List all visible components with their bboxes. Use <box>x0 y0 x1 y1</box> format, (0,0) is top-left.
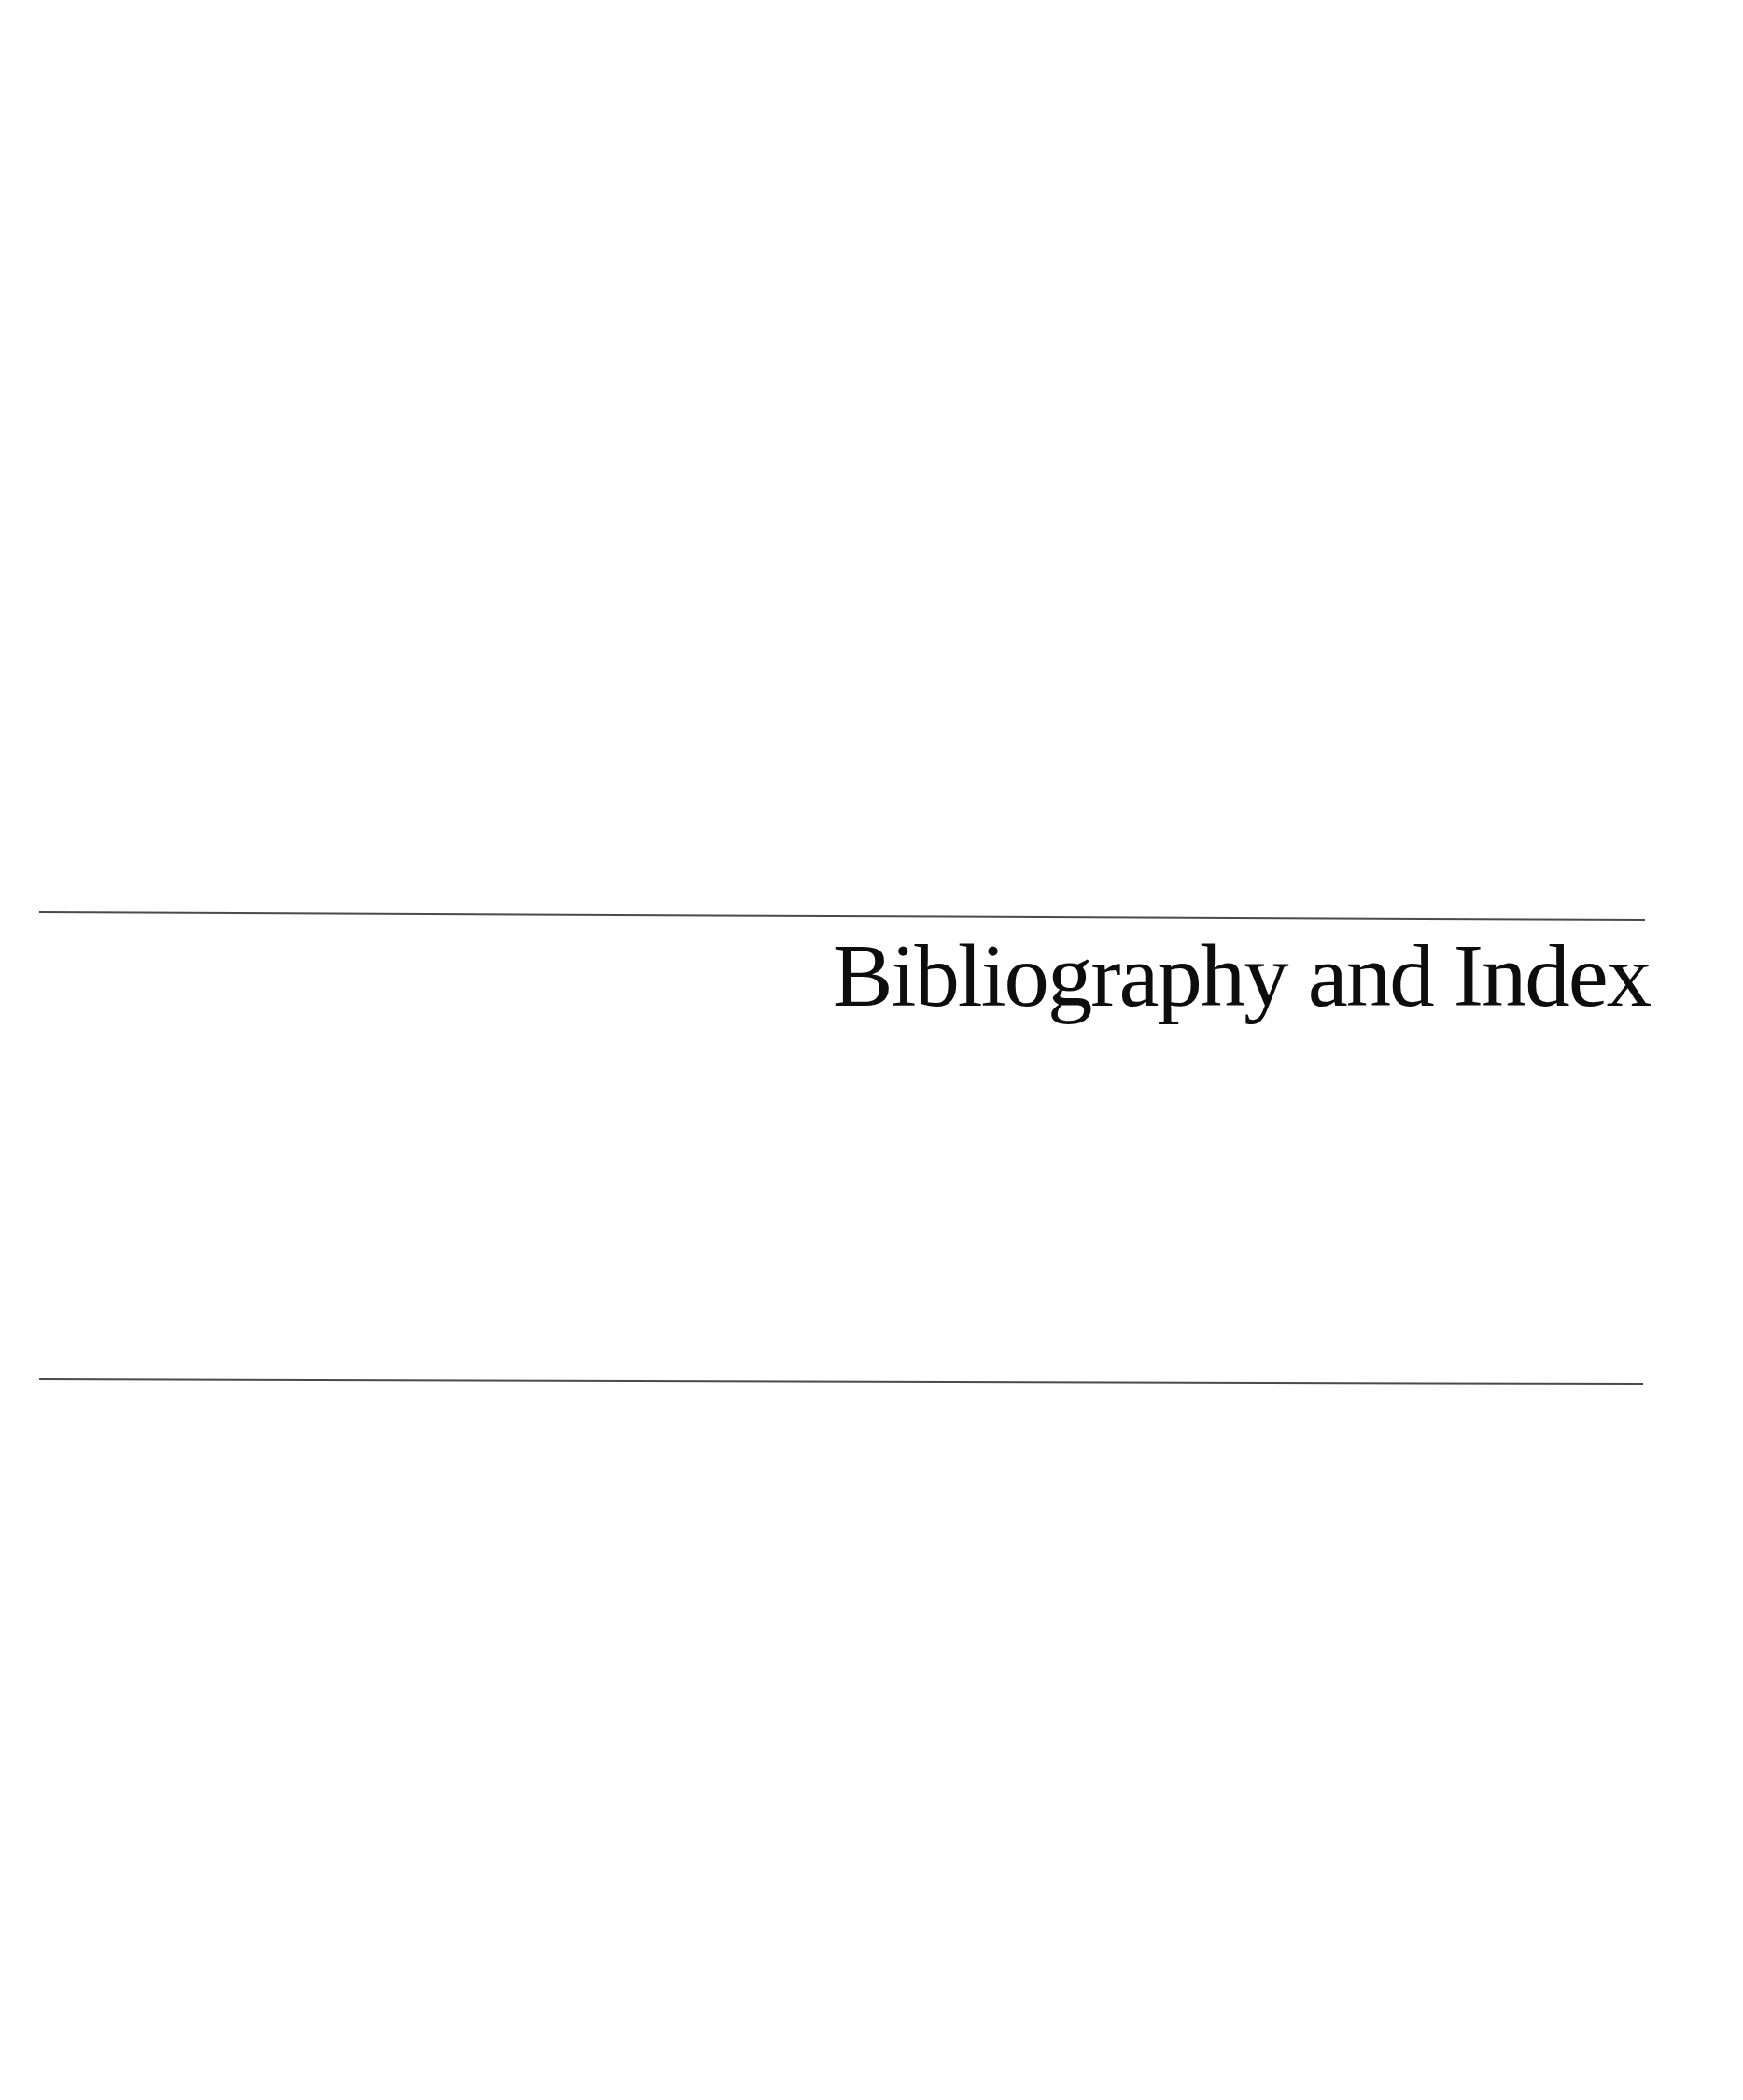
section-divider-page: Bibliography and Index <box>0 0 1743 2100</box>
section-title: Bibliography and Index <box>833 924 1656 1027</box>
bottom-horizontal-rule <box>39 1378 1643 1385</box>
top-horizontal-rule <box>39 911 1645 921</box>
